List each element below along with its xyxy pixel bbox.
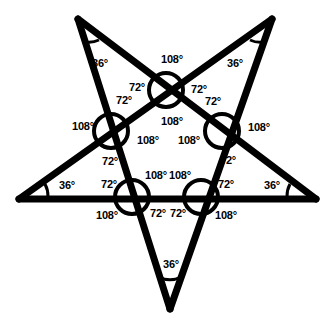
angle-label-tip-left: 36° — [59, 180, 75, 191]
angle-label-bottom-left-node-upper: 72° — [101, 179, 117, 190]
angle-label-top-node-right: 72° — [191, 84, 207, 95]
angle-label-tip-top-left: 36° — [92, 58, 108, 69]
angle-label-left-node-upper: 72° — [116, 95, 132, 106]
angle-label-top-node-left: 72° — [129, 82, 145, 93]
angle-label-bottom-left-node-inner: 108° — [145, 170, 167, 181]
angle-label-tip-right: 36° — [264, 180, 280, 191]
angle-label-right-node-upper: 72° — [205, 96, 221, 107]
angle-label-left-node-outer: 108° — [72, 121, 94, 132]
angle-label-right-node-inner: 108° — [178, 135, 200, 146]
pentagram-drawing — [0, 0, 334, 331]
angle-label-right-node-lower: 72° — [220, 155, 236, 166]
angle-label-tip-bottom: 36° — [163, 259, 179, 270]
angle-label-bottom-left-node-lower: 72° — [150, 208, 166, 219]
angle-label-left-node-lower: 72° — [102, 156, 118, 167]
angle-label-tip-top-right: 36° — [227, 58, 243, 69]
figure-background — [0, 0, 334, 331]
angle-label-top-node-outer: 108° — [161, 54, 183, 65]
angle-label-left-node-inner: 108° — [137, 135, 159, 146]
angle-label-bottom-right-node-inner: 108° — [169, 170, 191, 181]
angle-label-right-node-outer: 108° — [248, 122, 270, 133]
angle-label-bottom-right-node-lower: 72° — [170, 208, 186, 219]
angle-label-bottom-right-node-outer: 108° — [215, 210, 237, 221]
angle-label-top-node-inner: 108° — [161, 116, 183, 127]
angle-label-bottom-left-node-outer: 108° — [96, 210, 118, 221]
angle-label-bottom-right-node-upper: 72° — [218, 179, 234, 190]
pentagram-figure: 36° 36° 36° 36° 36° 108° 72° 72° 108° 10… — [0, 0, 334, 331]
